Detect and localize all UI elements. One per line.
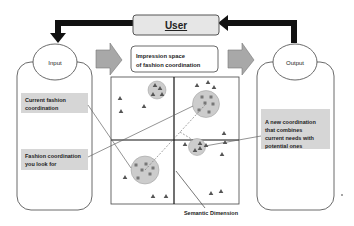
square-marker [149,173,152,176]
output-panel: Output A new coordination that combines … [257,44,334,210]
output-title: Output [286,60,304,66]
square-marker [135,164,138,167]
square-marker [204,102,207,105]
output-note-line1: A new coordination [265,119,316,125]
square-marker [137,177,140,180]
square-marker [198,109,201,112]
cluster-top-left [148,81,166,99]
cluster-new [189,139,206,156]
input-note-lookfor-line2: you look for [25,161,57,167]
impression-space [88,77,261,208]
square-marker [152,167,155,170]
input-note-current-line2: coordination [25,105,59,111]
output-note-line3: current needs with [265,135,315,141]
loop-arrow-from-output [226,23,294,43]
flow-arrow-input-to-space [96,43,122,75]
stray-dot [341,194,343,196]
square-marker [141,169,144,172]
diagram-canvas: User Input Current fashion coordination … [0,0,354,226]
square-marker [201,96,204,99]
user-label: User [165,20,187,31]
loop-arrowhead-input [50,33,66,43]
input-note-current-line1: Current fashion [25,97,67,103]
semantic-dimension-label: Semantic Dimension [184,210,239,216]
square-marker [208,111,211,114]
input-title: Input [48,60,62,66]
square-marker [210,96,213,99]
space-title-line2: of fashion coordination [136,62,201,68]
input-note-lookfor-line1: Fashion coordination [25,153,82,159]
loop-arrow-to-input [58,23,134,34]
input-panel: Input Current fashion coordination Fashi… [17,44,92,210]
flow-arrow-space-to-output [228,43,254,75]
space-title-line1: Impression space [136,53,186,59]
user-box[interactable]: User [133,15,219,35]
space-title-box: Impression space of fashion coordination [131,46,218,72]
output-note-line2: that combines [265,127,302,133]
square-marker [145,163,148,166]
output-note-line4: potential ones [265,143,302,149]
square-marker [212,103,215,106]
